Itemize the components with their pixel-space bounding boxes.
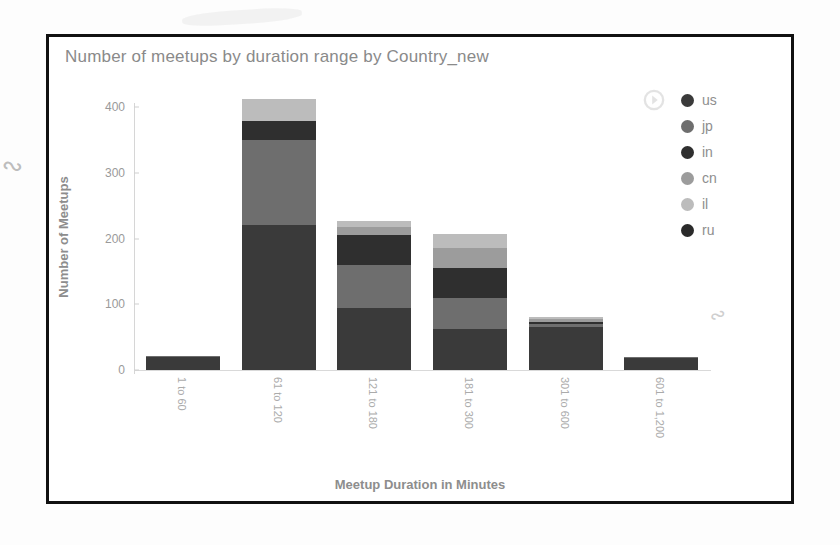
legend-item-ru[interactable]: ru bbox=[681, 217, 773, 243]
bar-segment[interactable] bbox=[337, 235, 411, 265]
bar-segment[interactable] bbox=[433, 298, 507, 330]
bar-segment[interactable] bbox=[433, 248, 507, 268]
bar-stack[interactable] bbox=[242, 99, 316, 370]
y-tick-label: 300 bbox=[105, 166, 125, 180]
legend-swatch-jp bbox=[681, 120, 694, 133]
bar-stack[interactable] bbox=[433, 234, 507, 370]
bar-segment[interactable] bbox=[242, 121, 316, 139]
bar-segment[interactable] bbox=[529, 327, 603, 370]
bar-stack[interactable] bbox=[624, 357, 698, 370]
bar-segment[interactable] bbox=[624, 358, 698, 370]
x-tick-label: 121 to 180 bbox=[367, 377, 379, 429]
scan-artifact-mid-curl: ∾ bbox=[706, 303, 729, 328]
legend-swatch-us bbox=[681, 94, 694, 107]
bar-stack[interactable] bbox=[337, 221, 411, 370]
legend-label: ru bbox=[702, 222, 714, 238]
legend-swatch-cn bbox=[681, 172, 694, 185]
bar-stack[interactable] bbox=[146, 356, 220, 370]
bar-segment[interactable] bbox=[433, 268, 507, 298]
y-axis-tick-labels: 0100200300400 bbox=[49, 37, 135, 377]
legend-item-us[interactable]: us bbox=[681, 87, 773, 113]
bar-segment[interactable] bbox=[242, 99, 316, 121]
bar-segment[interactable] bbox=[242, 140, 316, 225]
x-tick-label: 1 to 60 bbox=[176, 377, 188, 411]
scan-artifact-top bbox=[182, 6, 303, 28]
legend-label: jp bbox=[702, 118, 713, 134]
legend-item-cn[interactable]: cn bbox=[681, 165, 773, 191]
legend-item-in[interactable]: in bbox=[681, 139, 773, 165]
bar-segment[interactable] bbox=[337, 308, 411, 370]
legend: usjpincnilru bbox=[681, 87, 773, 243]
y-tick-label: 0 bbox=[118, 363, 125, 377]
y-tick-label: 100 bbox=[105, 297, 125, 311]
circle-arrow-right-icon[interactable] bbox=[643, 89, 665, 111]
scan-artifact-left-curl: ∾ bbox=[0, 150, 26, 180]
x-tick-label: 301 to 600 bbox=[559, 377, 571, 429]
page-canvas: ∾ Number of meetups by duration range by… bbox=[0, 0, 840, 545]
y-tick-label: 200 bbox=[105, 232, 125, 246]
x-axis-title: Meetup Duration in Minutes bbox=[49, 477, 791, 492]
bar-segment[interactable] bbox=[146, 357, 220, 370]
legend-swatch-ru bbox=[681, 224, 694, 237]
legend-label: cn bbox=[702, 170, 717, 186]
bar-segment[interactable] bbox=[337, 227, 411, 235]
legend-label: in bbox=[702, 144, 713, 160]
bar-segment[interactable] bbox=[433, 234, 507, 248]
plot-area bbox=[135, 107, 709, 370]
x-tick-label: 61 to 120 bbox=[272, 377, 284, 423]
legend-swatch-in bbox=[681, 146, 694, 159]
bar-stack[interactable] bbox=[529, 317, 603, 370]
bar-segment[interactable] bbox=[433, 329, 507, 370]
x-axis-line bbox=[134, 370, 711, 371]
legend-swatch-il bbox=[681, 198, 694, 211]
legend-item-jp[interactable]: jp bbox=[681, 113, 773, 139]
report-frame: Number of meetups by duration range by C… bbox=[46, 34, 794, 504]
legend-label: us bbox=[702, 92, 717, 108]
bar-segment[interactable] bbox=[337, 265, 411, 308]
bar-segment[interactable] bbox=[242, 225, 316, 370]
x-tick-label: 181 to 300 bbox=[463, 377, 475, 429]
y-tick-label: 400 bbox=[105, 100, 125, 114]
x-tick-label: 601 to 1,200 bbox=[654, 377, 666, 438]
legend-item-il[interactable]: il bbox=[681, 191, 773, 217]
legend-label: il bbox=[702, 196, 708, 212]
